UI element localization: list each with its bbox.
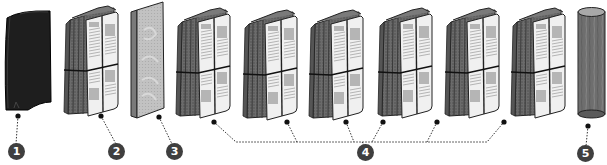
callout-2: 2	[108, 143, 125, 160]
callout-4: 4	[357, 144, 374, 161]
component-4-pleated-filter-e	[445, 8, 499, 118]
component-4-pleated-filter-c	[309, 10, 363, 120]
component-5-cylinder	[578, 8, 605, 119]
component-2-pleated-filter	[64, 6, 118, 116]
component-4-pleated-filter-f	[511, 8, 565, 118]
callout-1: 1	[8, 143, 25, 160]
component-3-mesh-panel	[131, 2, 164, 118]
anchor-dots	[15, 113, 590, 128]
component-4-pleated-filter-a	[176, 8, 230, 118]
callout-5: 5	[577, 145, 594, 162]
component-1-dark-filter	[5, 11, 51, 110]
filter-layers-diagram	[0, 0, 607, 165]
component-4-pleated-filter-d	[378, 8, 432, 118]
callout-3: 3	[166, 143, 183, 160]
component-4-pleated-filter-b	[243, 10, 297, 120]
